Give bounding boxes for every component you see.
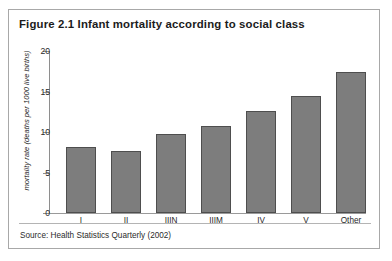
y-axis-tick-label: 0 <box>24 208 50 218</box>
bar-column: V <box>291 51 321 213</box>
bar <box>156 134 186 213</box>
bar <box>111 151 141 213</box>
bar-column: IIIN <box>156 51 186 213</box>
page-title: Figure 2.1 Infant mortality according to… <box>19 18 305 30</box>
bar-chart-plot-area: 05101520 mortality rate (deaths per 1000… <box>9 38 381 222</box>
figure-card: Figure 2.1 Infant mortality according to… <box>8 9 380 249</box>
bar-column: Other <box>336 51 366 213</box>
bar <box>66 147 96 213</box>
bar <box>201 126 231 213</box>
bar-column: I <box>66 51 96 213</box>
bar-column: IIIM <box>201 51 231 213</box>
bar-column: II <box>111 51 141 213</box>
source-note: Source: Health Statistics Quarterly (200… <box>20 231 171 240</box>
y-axis-title: mortality rate (deaths per 1000 live bir… <box>22 46 31 196</box>
source-divider <box>19 223 371 224</box>
x-axis-line <box>49 213 366 214</box>
bar-column: IV <box>246 51 276 213</box>
bar <box>246 111 276 213</box>
bar <box>336 72 366 213</box>
bar <box>291 96 321 213</box>
